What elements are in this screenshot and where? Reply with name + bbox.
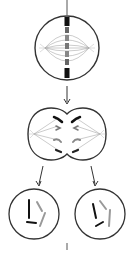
daughter-cell-right <box>75 189 125 239</box>
arrow-down-icon <box>64 86 70 104</box>
arrow-down-left-icon <box>36 166 43 186</box>
aster-right-divided <box>100 130 105 138</box>
dividing-cell <box>28 108 106 160</box>
right-chromosomes <box>72 117 80 152</box>
aster-left-divided <box>29 130 34 138</box>
metaphase-cell <box>35 16 99 80</box>
aster-left <box>39 44 45 52</box>
metaphase-chromosomes <box>65 17 70 78</box>
spindle-fibers-divided <box>34 118 100 150</box>
arrow-down-right-icon <box>91 166 98 186</box>
left-chromosomes <box>54 117 62 152</box>
cell-division-diagram <box>0 0 134 254</box>
aster-right <box>89 44 95 52</box>
daughter-cell-left <box>9 189 59 239</box>
